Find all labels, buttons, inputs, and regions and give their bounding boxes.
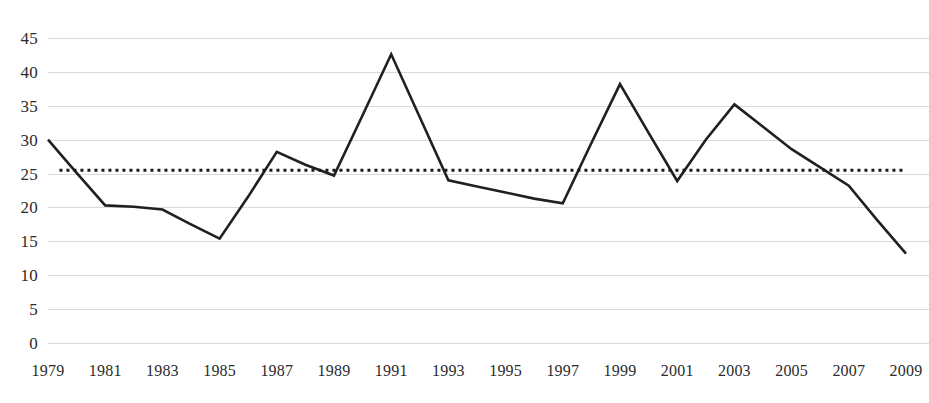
x-axis-tick-label: 1995 (489, 363, 522, 379)
x-axis-tick-label: 2005 (775, 363, 808, 379)
x-axis: 1979198119831985198719891991199319951997… (0, 0, 929, 403)
x-axis-tick-label: 1991 (375, 363, 408, 379)
x-axis-tick-label: 2007 (832, 363, 865, 379)
line-chart: 454035302520151050 197919811983198519871… (0, 0, 929, 403)
x-axis-tick-label: 2009 (890, 363, 923, 379)
x-axis-tick-label: 2001 (661, 363, 694, 379)
x-axis-tick-label: 1997 (546, 363, 579, 379)
x-axis-tick-label: 1979 (32, 363, 65, 379)
x-axis-tick-label: 1993 (432, 363, 465, 379)
x-axis-tick-label: 1989 (318, 363, 351, 379)
x-axis-tick-label: 1981 (89, 363, 122, 379)
x-axis-tick-label: 1987 (260, 363, 293, 379)
x-axis-tick-label: 1983 (146, 363, 179, 379)
x-axis-tick-label: 1985 (203, 363, 236, 379)
x-axis-tick-label: 2003 (718, 363, 751, 379)
x-axis-tick-label: 1999 (604, 363, 637, 379)
